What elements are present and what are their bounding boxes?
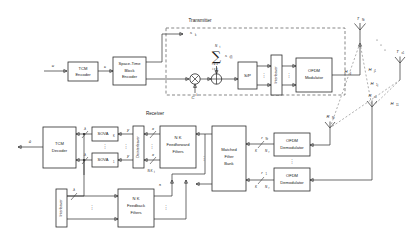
summation-condition: i ≠ k	[212, 67, 218, 71]
interleaver-out-dots: ⋮	[287, 72, 292, 78]
feedback-junction-top	[83, 133, 85, 135]
mfb-out-dots: ⋮	[202, 155, 207, 161]
signal-y-1: y	[126, 153, 130, 158]
mfb-line3: Bank	[224, 161, 234, 166]
tx-antenna-nt	[355, 23, 366, 43]
fb-interleaver-out-dots: ⋮	[90, 204, 95, 210]
summation-lower-limit: i = 1	[212, 62, 218, 66]
ff-line2: Feedforward	[167, 142, 191, 147]
stbc-line3: Encoder	[122, 74, 138, 79]
tcm-decoder-line1: TCM	[55, 141, 64, 146]
tx-antenna-x1	[395, 57, 405, 81]
signal-r-nr-sub: Nr	[266, 137, 269, 141]
tap-nr-bot-sub: r	[269, 186, 270, 190]
signal-y-k: y	[126, 127, 130, 132]
ff-out-dots: ⋮	[150, 143, 155, 149]
ofdm-demod-bot-line1: OFDM	[286, 173, 299, 178]
sp-out-dots: ⋮	[262, 72, 267, 78]
signal-sk-top: s	[190, 30, 193, 35]
channel-label-hjj-sub: jj	[349, 71, 352, 75]
ntk-label: N K	[147, 169, 153, 173]
ofdm-mod-line1: OFDM	[308, 68, 321, 73]
mfb-line2: Filter	[224, 154, 234, 159]
stbc-line1: Space-Time	[119, 61, 142, 66]
deint-out-dots: ⋮	[124, 143, 129, 149]
rx-antenna-x1-to-demod	[310, 128, 372, 180]
tx-antenna-nt-sub: Nt	[362, 18, 365, 22]
signal-lambda-k: λ	[83, 126, 86, 131]
channel-label-h11: H	[390, 101, 394, 106]
fb-out-dots: ⋮	[164, 204, 169, 210]
tap-k-bot: K	[255, 185, 258, 189]
transmitter-label: Transmitter	[188, 18, 212, 23]
channel-label-h1j: H	[370, 81, 374, 86]
channel-path-hjj	[330, 43, 360, 128]
tap-nr-top-sub: r	[269, 150, 270, 154]
sova-k-label: SOVA	[97, 131, 108, 136]
sova-stack-dots: ⋮	[103, 143, 108, 149]
sova-1-out-slash	[82, 157, 88, 164]
signal-lambda-1: λ	[83, 152, 86, 157]
channel-label-h1j-sub: 1j	[376, 83, 378, 87]
rx-antenna-nr-sub: Nr	[332, 116, 335, 120]
tx-antenna-nt-label: T	[357, 16, 360, 21]
tx-interleaver-label: Interleaver	[274, 66, 278, 84]
deinterleaver-label: Deinterleaver	[136, 136, 140, 158]
stbc-top-branch	[146, 34, 183, 62]
ff-line3: Filters	[172, 149, 183, 154]
ofdm-demod-bot-line2: Demodulator	[280, 180, 304, 185]
tcm-decoder-line2: Decoder	[52, 148, 68, 153]
tap-k-top: K	[255, 149, 258, 153]
tx-antenna-x1-label: T	[396, 49, 399, 54]
signal-s-tilde: s̃	[159, 182, 162, 187]
summation-upper-limit: N	[215, 44, 218, 48]
signal-u-hat: û	[29, 139, 32, 144]
stbc-line2: Block	[124, 68, 135, 73]
signal-r-1-sub: 1	[266, 172, 268, 176]
antenna-ellipsis-dots	[376, 39, 385, 50]
signal-C-sup: k	[197, 93, 199, 97]
ofdm-mod-line2: Modulator	[305, 75, 324, 80]
signal-c: c	[104, 64, 107, 69]
tcm-encoder-line2: Encoder	[75, 72, 91, 77]
rx-antenna-nr	[325, 122, 335, 146]
tap-nr-bot: N	[265, 185, 268, 189]
summation-term: s	[225, 53, 228, 58]
tap-slash-bot	[258, 177, 264, 184]
fb-interleaver-label: Interleaver	[59, 199, 63, 217]
summation-term-sub: i(l)	[230, 55, 233, 59]
ofdm-demod-top-line1: OFDM	[286, 138, 299, 143]
sp-label: S/P	[244, 73, 251, 78]
summation-symbol: ∑	[212, 49, 222, 64]
fb-out-top-path	[154, 180, 172, 196]
signal-sk-top-sub: k	[195, 33, 197, 37]
signal-x-1: x	[151, 152, 155, 157]
ff-line1: N K	[175, 135, 182, 140]
fb-line3: Filters	[130, 210, 141, 215]
fb-line1: N K	[133, 196, 140, 201]
feedback-junction-bottom	[83, 159, 85, 161]
ff-out-bottom-slash	[150, 157, 156, 164]
channel-label-hj1-sub: j1	[373, 69, 377, 73]
sova-k-sub: K	[113, 134, 115, 138]
tap-nr-top: N	[265, 149, 268, 153]
signal-r-1: r	[261, 170, 263, 175]
ff-out-top-slash	[150, 131, 156, 138]
channel-label-hj1: H	[368, 67, 372, 72]
channel-label-hjj: H	[344, 69, 348, 74]
sova-k-out-slash	[82, 131, 88, 138]
ofdm-demod-top-line2: Demodulator	[280, 145, 304, 150]
signal-x-k: x	[151, 126, 155, 131]
fb-line2: Feedback	[127, 203, 146, 208]
sova-1-label: SOVA	[97, 157, 108, 162]
fb-slash-in	[71, 193, 77, 200]
tap-slash-top	[258, 141, 264, 148]
figure-canvas: Transmitter u TCM Encoder c Space-Time B…	[0, 0, 415, 239]
signal-u-input: u	[52, 63, 55, 68]
ntk-label-sub: t	[154, 170, 155, 174]
signal-r-nr: r	[261, 135, 263, 140]
channel-label-h11-sub: 11	[396, 103, 399, 107]
block-diagram: Transmitter u TCM Encoder c Space-Time B…	[0, 0, 415, 239]
receiver-label: Receiver	[146, 111, 165, 116]
tcm-encoder-line1: TCM	[79, 66, 88, 71]
